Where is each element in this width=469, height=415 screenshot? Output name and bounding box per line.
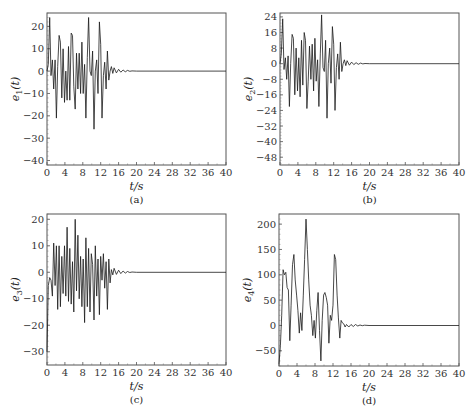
y-tick-label: 0 (270, 320, 276, 331)
y-tick-label: −50 (255, 345, 276, 356)
svg-text:e4(t): e4(t) (241, 278, 256, 303)
x-tick-label: 12 (327, 368, 340, 379)
x-tick-label: 32 (417, 368, 430, 379)
plot-frame (279, 214, 459, 366)
x-tick-label: 0 (276, 368, 282, 379)
x-tick-label: 24 (381, 368, 394, 379)
y-axis-title: e4(t) (241, 278, 256, 303)
series-line-e4 (279, 219, 459, 363)
y-tick-label: 200 (257, 219, 276, 230)
chart-panel-d: 0481216202428323640200150100500−50t/s(d)… (0, 0, 469, 415)
x-tick-label: 8 (312, 368, 318, 379)
y-tick-label: 100 (257, 269, 276, 280)
x-tick-label: 36 (435, 368, 448, 379)
x-tick-label: 20 (363, 368, 376, 379)
y-tick-label: 50 (263, 295, 276, 306)
x-tick-label: 16 (345, 368, 358, 379)
x-axis-title: t/s (362, 381, 376, 394)
line-chart-d: 0481216202428323640200150100500−50t/s(d)… (0, 0, 469, 415)
y-tick-label: 150 (257, 244, 276, 255)
x-tick-label: 4 (294, 368, 300, 379)
panel-caption: (d) (362, 395, 376, 406)
x-tick-label: 40 (453, 368, 466, 379)
x-tick-label: 28 (399, 368, 412, 379)
